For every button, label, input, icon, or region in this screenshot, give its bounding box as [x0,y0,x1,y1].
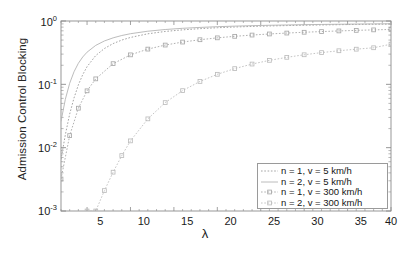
legend-swatch-3 [260,198,279,208]
series-line-2 [61,29,391,179]
legend-label-2: n = 1, v = 300 km/h [281,187,362,198]
legend-entry-0: n = 1, v = 5 km/h [260,166,384,177]
legend-swatch-0 [260,166,279,176]
legend-label-0: n = 1, v = 5 km/h [281,166,352,177]
legend-entry-2: n = 1, v = 300 km/h [260,187,384,198]
legend-swatch-2 [260,187,279,197]
x-axis-title: λ [0,226,410,241]
figure-canvas: Admission Control Blocking 100 10-1 10-2… [0,0,410,253]
series-line-0 [61,24,391,159]
legend-swatch-1 [260,177,279,187]
series-marker-3 [111,170,115,174]
legend-entry-3: n = 2, v = 300 km/h [260,198,384,209]
legend-label-3: n = 2, v = 300 km/h [281,198,362,209]
series-marker-2 [111,62,115,66]
series-line-1 [61,24,391,122]
legend: n = 1, v = 5 km/h n = 2, v = 5 km/h n = … [257,163,388,209]
